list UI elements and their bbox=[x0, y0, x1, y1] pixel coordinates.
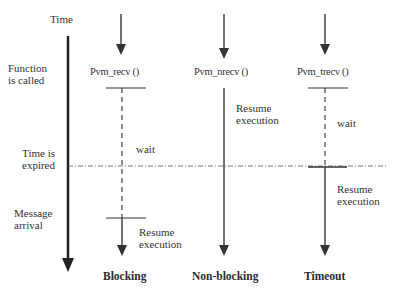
nonblocking-function-name: Pvm_nrecv () bbox=[194, 66, 248, 78]
resume-label-line: execution bbox=[337, 195, 380, 207]
event-label-line: is called bbox=[8, 74, 47, 86]
timeout-resume-label: Resume execution bbox=[337, 183, 380, 207]
event-label-line: arrival bbox=[14, 219, 53, 231]
blocking-resume-label: Resume execution bbox=[139, 226, 182, 250]
event-label-line: expired bbox=[22, 159, 55, 171]
event-label-line: Time is bbox=[22, 147, 55, 159]
event-label-line: Function bbox=[8, 62, 47, 74]
nonblocking-call-arrowhead bbox=[219, 48, 229, 59]
blocking-call-arrowhead bbox=[116, 44, 126, 55]
resume-label-line: execution bbox=[236, 114, 279, 126]
timeout-function-name: Pvm_trecv () bbox=[297, 66, 349, 78]
event-label-line: Message bbox=[14, 207, 53, 219]
timeout-wait-label: wait bbox=[337, 117, 356, 129]
resume-label-line: Resume bbox=[139, 226, 182, 238]
blocking-wait-label: wait bbox=[136, 143, 155, 155]
blocking-resume-arrowhead bbox=[117, 245, 127, 256]
timeout-resume-arrowhead bbox=[320, 245, 330, 256]
blocking-function-name: Pvm_recv () bbox=[90, 66, 139, 78]
nonblocking-resume-arrowhead bbox=[219, 245, 229, 256]
caption-blocking: Blocking bbox=[103, 270, 146, 282]
nonblocking-resume-label: Resume execution bbox=[236, 102, 279, 126]
time-axis-label: Time bbox=[50, 13, 73, 25]
resume-label-line: execution bbox=[139, 238, 182, 250]
resume-label-line: Resume bbox=[337, 183, 380, 195]
time-axis-arrowhead bbox=[62, 258, 74, 272]
event-message-arrival: Message arrival bbox=[14, 207, 53, 231]
event-function-called: Function is called bbox=[8, 62, 47, 86]
event-time-expired: Time is expired bbox=[22, 147, 55, 171]
caption-timeout: Timeout bbox=[304, 270, 345, 282]
timeout-call-arrowhead bbox=[320, 44, 330, 55]
resume-label-line: Resume bbox=[236, 102, 279, 114]
diagram-canvas bbox=[0, 0, 393, 293]
caption-nonblocking: Non-blocking bbox=[192, 270, 258, 282]
